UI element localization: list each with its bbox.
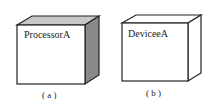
node-b-label: DeviceeA [128, 28, 168, 39]
node-processor-a [17, 16, 99, 84]
node-a-label: ProcessorA [24, 29, 70, 40]
node-b-side-face [188, 15, 201, 81]
caption-b: ( b ) [146, 88, 161, 98]
node-device-a [122, 15, 201, 81]
diagram-canvas [0, 0, 217, 105]
caption-a: ( a ) [42, 90, 57, 100]
node-a-side-face [85, 16, 99, 84]
